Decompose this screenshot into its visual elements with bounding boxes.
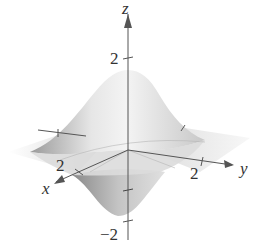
- z-tick-neg2: −2: [100, 226, 118, 243]
- trough: [72, 169, 165, 216]
- x-axis-label: x: [42, 180, 50, 197]
- z-axis-label: z: [122, 0, 129, 17]
- x-tick-2: 2: [56, 157, 65, 174]
- x-arrow-icon: [54, 175, 65, 184]
- surface-plot: z 2 −2 2 x 2 y: [0, 0, 256, 243]
- y-arrow-icon: [224, 160, 234, 168]
- z-tick-2: 2: [110, 50, 119, 67]
- y-tick-2: 2: [190, 165, 199, 182]
- y-axis-label: y: [240, 160, 248, 177]
- peak: [30, 70, 205, 154]
- surface-graphic: [0, 0, 256, 243]
